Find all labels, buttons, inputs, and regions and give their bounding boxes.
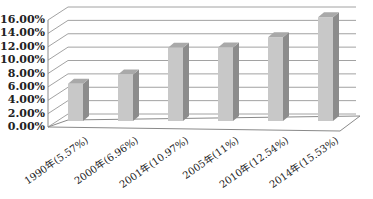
gridline [48, 20, 356, 33]
gridline [48, 7, 356, 20]
bar-side [183, 43, 189, 121]
bar-side [283, 32, 289, 121]
y-tick-label: 12.00% [0, 41, 45, 53]
bar-chart: 0.00%2.00%4.00%6.00%8.00%10.00%12.00%14.… [0, 0, 373, 199]
gridline [48, 34, 356, 47]
gridline [48, 61, 356, 74]
y-tick-label: 14.00% [0, 27, 45, 39]
y-tick-label: 8.00% [0, 68, 45, 80]
gridline [48, 101, 356, 114]
bar-side [133, 69, 139, 121]
y-tick-label: 6.00% [0, 81, 45, 93]
bar-side [233, 42, 239, 121]
bar [218, 47, 233, 121]
bar [268, 37, 283, 121]
gridline [48, 47, 356, 60]
gridline [48, 74, 356, 87]
y-tick-label: 10.00% [0, 54, 45, 66]
y-tick-label: 0.00% [0, 121, 45, 133]
bar [168, 48, 183, 121]
y-tick-label: 2.00% [0, 108, 45, 120]
gridline [48, 87, 356, 100]
chart-floor [48, 116, 360, 131]
y-tick-label: 16.00% [0, 14, 45, 26]
gridline [48, 114, 356, 127]
bar-side [333, 12, 339, 121]
bar [68, 84, 83, 121]
bar [318, 17, 333, 121]
bar-side [83, 79, 89, 121]
bar [118, 74, 133, 121]
y-tick-label: 4.00% [0, 94, 45, 106]
